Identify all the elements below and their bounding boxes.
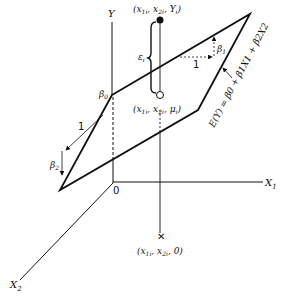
equation-pointer [223, 68, 232, 78]
x1-axis-label: X1 [264, 177, 277, 191]
unit1-label: 1 [193, 59, 199, 70]
error-bracket [148, 22, 156, 93]
beta2-label: β2 [49, 160, 59, 171]
origin-label: 0 [113, 185, 119, 196]
regression-plane-diagram: ✕ Y X1 X2 0 (x1i, x2i, Yi) (x1i, x2i, μi… [0, 0, 284, 297]
y-axis-label: Y [108, 8, 116, 19]
beta1-label: β1 [216, 44, 226, 55]
error-label: εi [138, 52, 145, 63]
observed-point [157, 17, 164, 24]
base-point-label: (x1i, x2i, 0) [137, 246, 183, 257]
fitted-point-label: (x1i, x2i, μi) [133, 104, 181, 115]
fitted-point [157, 92, 164, 99]
intercept-label: β0 [98, 89, 108, 100]
x2-axis [20, 183, 113, 280]
base-point-marker: ✕ [157, 231, 165, 242]
x2-axis-label: X2 [9, 279, 22, 293]
observed-point-label: (x1i, x2i, Yi) [133, 4, 182, 15]
unit2-label: 1 [78, 121, 84, 132]
